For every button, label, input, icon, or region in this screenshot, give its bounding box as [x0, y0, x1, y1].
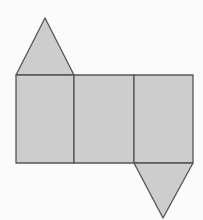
- bottom-triangle-face: [134, 163, 193, 218]
- rect-left-face: [16, 75, 74, 163]
- net-faces: [16, 18, 193, 218]
- rect-middle-face: [74, 75, 134, 163]
- rect-right-face: [134, 75, 193, 163]
- top-triangle-face: [16, 18, 74, 75]
- prism-net-diagram: [0, 0, 203, 220]
